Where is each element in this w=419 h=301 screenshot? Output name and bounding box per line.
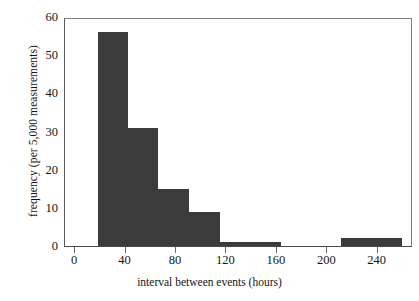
y-tick-label: 10 xyxy=(2,202,58,215)
y-tick-label: 20 xyxy=(2,164,58,177)
histogram-bar xyxy=(128,128,158,246)
y-tick-label: 60 xyxy=(2,11,58,24)
x-axis-title: interval between events (hours) xyxy=(0,276,419,288)
histogram-bar xyxy=(341,238,371,246)
histogram-bars xyxy=(65,19,411,246)
plot-area xyxy=(64,18,412,247)
x-tick-label: 240 xyxy=(347,254,407,268)
y-tick-label: 40 xyxy=(2,87,58,100)
y-tick-label: 50 xyxy=(2,49,58,62)
histogram-bar xyxy=(189,212,221,246)
histogram-bar xyxy=(250,242,280,246)
histogram-figure: frequency (per 5,000 measurements) 01020… xyxy=(0,0,419,301)
histogram-bar xyxy=(220,242,250,246)
y-tick-label: 30 xyxy=(2,126,58,139)
histogram-bar xyxy=(158,189,188,246)
y-tick-label: 0 xyxy=(2,240,58,253)
histogram-bar xyxy=(371,238,401,246)
histogram-bar xyxy=(98,32,128,246)
